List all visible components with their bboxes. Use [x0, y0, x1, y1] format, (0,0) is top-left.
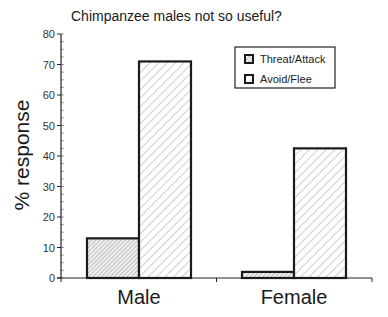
x-category-label: Male [117, 286, 160, 308]
bar-avoid-flee-female [294, 148, 346, 278]
y-tick-label: 0 [49, 272, 55, 284]
x-category-label: Female [261, 286, 328, 308]
y-tick-label: 60 [43, 89, 55, 101]
legend-swatch [245, 55, 253, 63]
y-tick-label: 70 [43, 59, 55, 71]
legend-swatch [245, 75, 253, 83]
legend: Threat/AttackAvoid/Flee [235, 47, 335, 88]
bar-threat-attack-female [242, 272, 294, 278]
y-tick-label: 50 [43, 120, 55, 132]
bar-chart: 01020304050607080 MaleFemale Threat/Atta… [0, 0, 388, 317]
y-tick-label: 10 [43, 242, 55, 254]
y-tick-label: 20 [43, 211, 55, 223]
y-tick-label: 80 [43, 28, 55, 40]
bar-avoid-flee-male [139, 61, 191, 278]
bars: MaleFemale [87, 61, 346, 308]
legend-label: Avoid/Flee [260, 73, 312, 85]
bar-threat-attack-male [87, 238, 139, 278]
y-tick-label: 40 [43, 150, 55, 162]
legend-label: Threat/Attack [260, 53, 326, 65]
y-tick-label: 30 [43, 181, 55, 193]
